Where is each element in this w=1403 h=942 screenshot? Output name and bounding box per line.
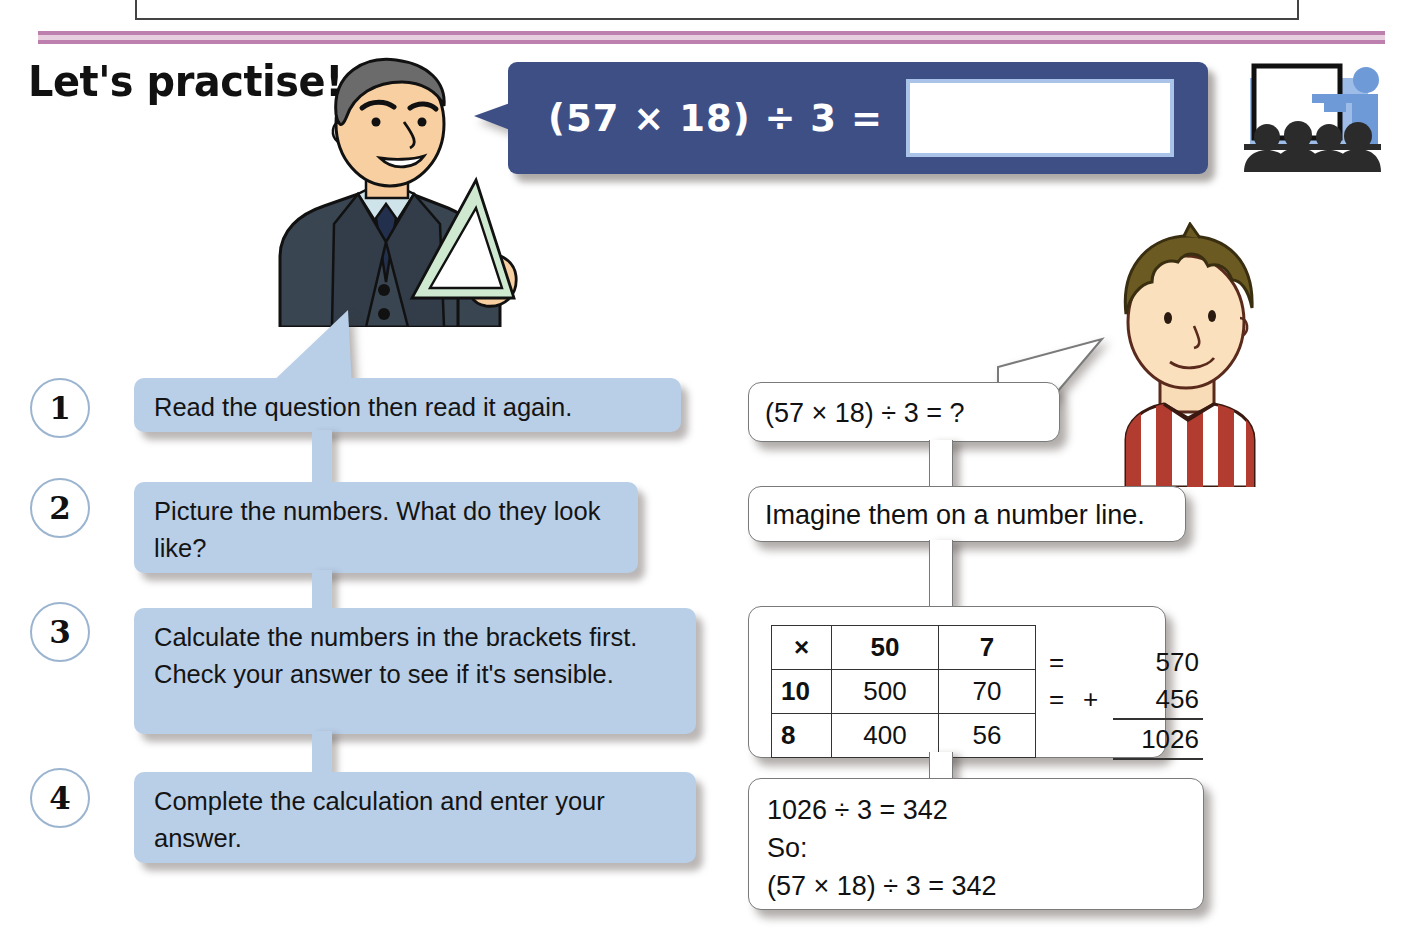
- grid-sum-row-2: = + 456: [1049, 680, 1203, 717]
- conclusion-line-1: 1026 ÷ 3 = 342: [767, 791, 1203, 829]
- step-number-4-label: 4: [49, 780, 71, 816]
- question-banner: (57 × 18) ÷ 3 =: [508, 62, 1208, 174]
- grid-header-operator: ×: [772, 626, 832, 670]
- thought-box-question: (57 × 18) ÷ 3 = ?: [748, 382, 1060, 442]
- grid-sum-eq-2: =: [1049, 680, 1083, 718]
- step-box-2: Picture the numbers. What do they look l…: [134, 482, 638, 573]
- step-number-3: 3: [30, 602, 90, 662]
- divider-rule-line-top: [38, 31, 1385, 35]
- step-text-3: Calculate the numbers in the brackets fi…: [154, 623, 637, 688]
- banner-speech-tail: [474, 103, 510, 130]
- classroom-icon: [1236, 60, 1386, 172]
- grid-sum-value-1: 570: [1113, 643, 1203, 681]
- grid-sum-value-2: 456: [1113, 680, 1203, 720]
- thought-question-text: (57 × 18) ÷ 3 = ?: [765, 398, 964, 428]
- decorative-divider-rule: [38, 31, 1385, 44]
- grid-row: 8 400 56: [772, 714, 1036, 758]
- grid-row2-label: 8: [772, 714, 832, 758]
- grid-header-row: × 50 7: [772, 626, 1036, 670]
- thought-number-line-text: Imagine them on a number line.: [765, 500, 1145, 530]
- step-number-2-label: 2: [49, 490, 71, 526]
- step-text-1: Read the question then read it again.: [154, 393, 572, 421]
- grid-sum-total: 1026: [1113, 720, 1203, 760]
- banner-equation: (57 × 18) ÷ 3 =: [548, 97, 883, 140]
- step-box-1: Read the question then read it again.: [134, 378, 681, 432]
- grid-sum-column: = 570 = + 456 1026: [1049, 643, 1203, 757]
- grid-header-col2: 7: [939, 626, 1036, 670]
- grid-sum-row-1: = 570: [1049, 643, 1203, 680]
- divider-rule-line-bottom: [38, 40, 1385, 44]
- grid-method-box: × 50 7 10 500 70 8 400 56 = 570 = + 456 …: [748, 606, 1166, 758]
- thought-connector-1-2: [929, 440, 953, 492]
- step-text-2: Picture the numbers. What do they look l…: [154, 497, 600, 562]
- grid-row1-label: 10: [772, 670, 832, 714]
- step-number-2: 2: [30, 478, 90, 538]
- grid-row1-cell1: 500: [832, 670, 939, 714]
- grid-sum-plus: +: [1083, 680, 1113, 718]
- grid-row2-cell2: 56: [939, 714, 1036, 758]
- multiplication-grid: × 50 7 10 500 70 8 400 56: [771, 625, 1036, 758]
- thought-connector-2-3: [929, 540, 953, 608]
- step-number-4: 4: [30, 768, 90, 828]
- step-box-3: Calculate the numbers in the brackets fi…: [134, 608, 696, 734]
- thought-box-number-line: Imagine them on a number line.: [748, 486, 1186, 542]
- grid-sum-row-total: 1026: [1049, 717, 1203, 757]
- grid-sum-eq-1: =: [1049, 643, 1083, 681]
- grid-row: 10 500 70: [772, 670, 1036, 714]
- step-box-4: Complete the calculation and enter your …: [134, 772, 696, 863]
- grid-row1-cell2: 70: [939, 670, 1036, 714]
- conclusion-line-2: So:: [767, 829, 1203, 867]
- step-text-4: Complete the calculation and enter your …: [154, 787, 605, 852]
- step-number-3-label: 3: [49, 614, 71, 650]
- step-connector-3-4: [312, 731, 332, 775]
- top-frame-box: [135, 0, 1299, 20]
- grid-header-col1: 50: [832, 626, 939, 670]
- step-number-1: 1: [30, 378, 90, 438]
- answer-input-box[interactable]: [906, 79, 1174, 157]
- step-connector-1-2: [312, 430, 332, 484]
- conclusion-line-3: (57 × 18) ÷ 3 = 342: [767, 867, 1203, 905]
- grid-row2-cell1: 400: [832, 714, 939, 758]
- conclusion-box: 1026 ÷ 3 = 342 So: (57 × 18) ÷ 3 = 342: [748, 778, 1204, 910]
- teacher-character: [262, 52, 532, 327]
- step-number-1-label: 1: [49, 390, 71, 426]
